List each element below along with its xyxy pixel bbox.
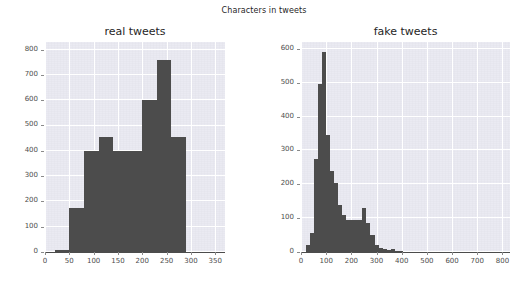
x-tick-mark	[301, 252, 302, 255]
y-tick-label: 800	[8, 45, 38, 53]
x-tick-mark	[326, 252, 327, 255]
y-tick-label: 700	[8, 70, 38, 78]
gridline-vertical	[377, 42, 378, 252]
gridline-horizontal	[301, 48, 510, 49]
histogram-bar	[142, 100, 157, 252]
x-axis-spine-right	[301, 252, 510, 253]
subplot-title-fake-tweets: fake tweets	[301, 25, 510, 38]
histogram-bar	[171, 137, 186, 252]
y-tick-label: 500	[8, 120, 38, 128]
subplot-fake-tweets: fake tweets 0100200300400500600 01002003…	[301, 42, 510, 252]
y-tick-mark	[41, 252, 44, 253]
histogram-bar	[157, 60, 172, 252]
histogram-bar	[128, 151, 143, 252]
y-tick-mark	[297, 117, 300, 118]
x-tick-mark	[351, 252, 352, 255]
gridline-vertical	[215, 42, 216, 252]
y-tick-label: 500	[264, 78, 294, 86]
subplot-real-tweets: real tweets 0100200300400500600700800 05…	[45, 42, 225, 252]
y-tick-mark	[297, 83, 300, 84]
y-tick-label: 100	[8, 222, 38, 230]
gridline-horizontal	[45, 49, 225, 50]
x-tick-mark	[191, 252, 192, 255]
x-tick-mark	[45, 252, 46, 255]
y-tick-mark	[41, 75, 44, 76]
figure: Characters in tweets real tweets 0100200…	[0, 0, 528, 281]
histogram-bar	[113, 151, 128, 252]
gridline-vertical	[402, 42, 403, 252]
gridline-vertical	[502, 42, 503, 252]
x-tick-label: 800	[487, 257, 517, 265]
x-tick-mark	[377, 252, 378, 255]
x-tick-mark	[94, 252, 95, 255]
x-tick-mark	[69, 252, 70, 255]
gridline-vertical	[45, 42, 46, 252]
subplot-title-real-tweets: real tweets	[45, 25, 225, 38]
gridline-horizontal	[45, 125, 225, 126]
x-tick-mark	[167, 252, 168, 255]
y-tick-mark	[297, 252, 300, 253]
y-tick-label: 200	[8, 196, 38, 204]
x-tick-mark	[118, 252, 119, 255]
gridline-vertical	[301, 42, 302, 252]
gridline-horizontal	[301, 116, 510, 117]
x-tick-mark	[502, 252, 503, 255]
y-tick-mark	[41, 176, 44, 177]
y-tick-mark	[41, 227, 44, 228]
y-tick-mark	[41, 125, 44, 126]
gridline-horizontal	[301, 149, 510, 150]
x-tick-mark	[215, 252, 216, 255]
y-tick-mark	[297, 49, 300, 50]
y-tick-mark	[41, 50, 44, 51]
gridline-vertical	[477, 42, 478, 252]
plot-area-fake-tweets	[301, 42, 510, 252]
plot-area-real-tweets	[45, 42, 225, 252]
gridline-vertical	[452, 42, 453, 252]
x-tick-mark	[402, 252, 403, 255]
gridline-vertical	[191, 42, 192, 252]
x-tick-mark	[477, 252, 478, 255]
y-tick-label: 600	[8, 95, 38, 103]
y-tick-mark	[297, 150, 300, 151]
y-tick-label: 0	[264, 247, 294, 255]
x-axis-spine-left	[45, 252, 225, 253]
y-tick-label: 400	[264, 112, 294, 120]
y-tick-label: 0	[8, 247, 38, 255]
y-tick-mark	[297, 184, 300, 185]
y-tick-label: 600	[264, 44, 294, 52]
x-tick-mark	[142, 252, 143, 255]
histogram-bar	[84, 151, 99, 252]
y-tick-label: 100	[264, 213, 294, 221]
y-tick-label: 400	[8, 146, 38, 154]
x-tick-label: 350	[200, 257, 230, 265]
y-tick-label: 200	[264, 179, 294, 187]
gridline-horizontal	[45, 99, 225, 100]
figure-suptitle: Characters in tweets	[0, 6, 528, 15]
y-tick-label: 300	[264, 145, 294, 153]
gridline-vertical	[427, 42, 428, 252]
gridline-horizontal	[45, 74, 225, 75]
y-tick-label: 300	[8, 171, 38, 179]
histogram-bar	[69, 208, 84, 252]
y-tick-mark	[297, 218, 300, 219]
histogram-bar	[99, 137, 114, 252]
x-tick-mark	[452, 252, 453, 255]
y-tick-mark	[41, 201, 44, 202]
y-tick-mark	[41, 151, 44, 152]
x-tick-mark	[427, 252, 428, 255]
gridline-horizontal	[301, 82, 510, 83]
y-tick-mark	[41, 100, 44, 101]
